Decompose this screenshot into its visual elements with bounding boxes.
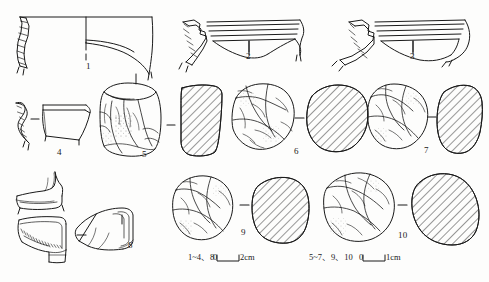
scale-stone-zero: 0 (359, 253, 363, 262)
item-label-3: 3 (410, 52, 415, 61)
item-label-6: 6 (294, 147, 299, 156)
scale-pottery-items: 1~4、8 (188, 253, 214, 262)
artefact-drawings (0, 0, 489, 282)
item-label-1: 1 (86, 62, 91, 71)
scale-bar-pottery-rule (217, 255, 239, 261)
drawing-item-8 (16, 172, 133, 263)
item-label-8: 8 (128, 241, 133, 250)
item-label-10: 10 (398, 231, 408, 240)
drawing-item-3 (332, 20, 470, 71)
item-label-2: 2 (246, 52, 251, 61)
scale-pottery-zero: 0 (213, 253, 217, 262)
drawing-item-5 (100, 83, 222, 156)
scale-pottery-end: 2cm (240, 253, 255, 262)
drawing-item-2 (179, 20, 304, 72)
artefact-plate: 1 2 3 4 5 6 7 8 9 10 1~4、8 0 2cm 5~7、9、1… (0, 0, 489, 282)
item-label-7: 7 (424, 146, 429, 155)
drawing-item-7 (368, 84, 483, 153)
item-label-9: 9 (241, 228, 246, 237)
scale-stone-end: 1cm (386, 253, 401, 262)
item-label-5: 5 (142, 150, 147, 159)
drawing-item-1 (17, 17, 153, 80)
scale-stone-items: 5~7、9、10 (309, 253, 353, 262)
item-label-4: 4 (57, 148, 62, 157)
drawing-item-4 (16, 102, 90, 150)
scale-bar-stone-rule (363, 255, 385, 261)
